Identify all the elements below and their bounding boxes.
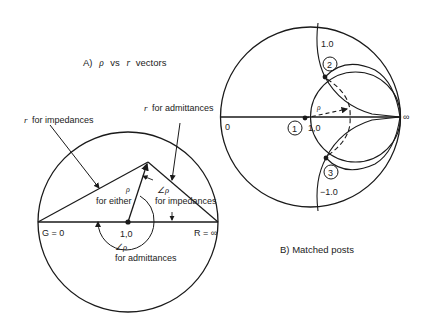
center-point-a: [125, 219, 130, 224]
reactance-arc-minus: [317, 158, 326, 211]
label-rho-b: ρ: [316, 103, 321, 112]
figure-a-title: A) ρ vs r vectors: [83, 57, 167, 68]
label-for-impedances: for impedances: [155, 196, 217, 206]
label-rho-a: ρ: [125, 185, 130, 194]
label-minus-one: −1.0: [320, 187, 338, 197]
badge-2-label: 2: [327, 60, 332, 70]
label-plus-one: 1.0: [321, 39, 334, 49]
label-r-infinity: R = ∞: [194, 228, 217, 238]
leader-r-impedances: [50, 125, 99, 188]
badge-3-label: 3: [328, 168, 333, 178]
label-infinity: ∞: [403, 112, 409, 122]
label-r-admittances: r for admittances: [144, 103, 214, 113]
cusp-arc-lower: [326, 117, 400, 158]
label-r-impedances: r for impedances: [24, 115, 94, 125]
label-for-either: for either: [96, 196, 132, 206]
post-point-3: [324, 156, 329, 161]
leader-r-admittances: [172, 123, 180, 180]
figure-b-title: B) Matched posts: [280, 244, 354, 255]
figure-a: A) ρ vs r vectors r for impedances: [24, 57, 218, 312]
post-point-2: [323, 75, 328, 80]
badge-1-label: 1: [292, 124, 297, 134]
angle-arc-impedances: [140, 196, 154, 222]
figure-b: 1 2 3 0 ∞ 1,0 1.0 −1.0 ρ B) Matched post…: [221, 23, 410, 255]
label-center-b: 1,0: [308, 123, 321, 133]
post-point-1: [303, 116, 308, 121]
leader-angle-rho: [143, 176, 153, 180]
label-zero: 0: [225, 122, 230, 132]
label-for-admittances: for admittances: [115, 253, 177, 263]
reactance-arc-plus: [317, 23, 325, 77]
label-angle-rho-top: ∠ρ: [157, 185, 169, 195]
smith-chart-figure: A) ρ vs r vectors r for impedances: [0, 0, 427, 331]
rho-vector: [128, 164, 147, 222]
label-g-zero: G = 0: [42, 228, 64, 238]
label-angle-rho-bottom: ∠ρ: [115, 242, 127, 252]
label-center-a: 1,0: [120, 229, 133, 239]
